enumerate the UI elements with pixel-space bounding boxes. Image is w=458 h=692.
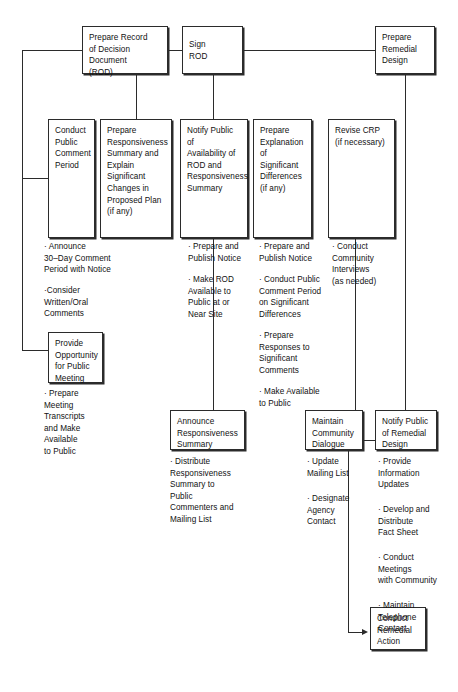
notes-provide-information-updates: · Provide Information Updates — [378, 456, 454, 491]
connector-to-conduct-public-comment — [22, 178, 48, 179]
notes-esd-publish: · Prepare and Publish Notice — [259, 241, 335, 264]
notes-update-mailing-list: · Update Mailing List — [307, 456, 373, 479]
box-announce-responsiveness-summary[interactable]: Announce Responsiveness Summary — [170, 410, 245, 450]
connector-rod-left-stub — [22, 50, 82, 51]
box-maintain-community-dialogue[interactable]: Maintain Community Dialogue — [305, 410, 363, 450]
notes-esd-make-available: · Make Available to Public — [259, 386, 339, 409]
notes-public-comment-period: · Announce 30–Day Comment Period with No… — [44, 241, 136, 276]
flowchart-canvas: Prepare Record of Decision Document (ROD… — [0, 0, 458, 692]
connector-sign-rod-to-remedial-design — [243, 50, 375, 51]
box-notify-public-remedial-design[interactable]: Notify Public of Remedial Design — [375, 410, 437, 450]
connector-rod-down-to-responsiveness — [136, 74, 137, 119]
notes-meeting-transcripts: · Prepare Meeting Transcripts and Make A… — [44, 388, 124, 458]
connector-rod-to-sign-rod — [168, 50, 182, 51]
notes-maintain-telephone-contact: · Maintain Telephone Contact — [378, 600, 454, 635]
box-prepare-explanation-significant-differences[interactable]: Prepare Explanation of Significant Diffe… — [253, 119, 312, 238]
connector-signrod-down-to-notify — [213, 74, 214, 119]
notes-consider-comments: ·Consider Written/Oral Comments — [44, 285, 136, 320]
notes-esd-responses: · Prepare Responses to Significant Comme… — [259, 330, 335, 376]
box-revise-crp[interactable]: Revise CRP (if necessary) — [328, 119, 395, 238]
connector-remedial-design-down — [405, 74, 406, 419]
notes-conduct-meetings: · Conduct Meetings with Community — [378, 552, 458, 587]
arrow-to-conduct-remedial-action — [362, 629, 368, 635]
box-notify-public-availability-rod[interactable]: Notify Public of Availability of ROD and… — [180, 119, 248, 238]
notes-make-rod-available: · Make ROD Available to Public at or Nea… — [188, 274, 258, 320]
connector-left-spine — [22, 50, 23, 350]
notes-distribute-responsiveness: · Distribute Responsiveness Summary to P… — [170, 456, 260, 526]
notes-designate-agency-contact: · Designate Agency Contact — [307, 493, 373, 528]
box-prepare-remedial-design[interactable]: Prepare Remedial Design — [375, 26, 435, 74]
box-sign-rod[interactable]: Sign ROD — [182, 26, 243, 74]
box-prepare-responsiveness-summary[interactable]: Prepare Responsiveness Summary and Expla… — [100, 119, 172, 238]
box-provide-opportunity-public-meeting[interactable]: Provide Opportunity for Public Meeting — [48, 332, 103, 383]
notes-develop-fact-sheet: · Develop and Distribute Fact Sheet — [378, 504, 454, 539]
notes-notify-publish: · Prepare and Publish Notice — [188, 241, 258, 264]
box-conduct-public-comment-period[interactable]: Conduct Public Comment Period — [48, 119, 95, 238]
box-prepare-rod[interactable]: Prepare Record of Decision Document (ROD… — [82, 26, 168, 74]
connector-to-provide-opportunity — [22, 350, 48, 351]
notes-community-interviews: · Conduct Community Interviews (as neede… — [332, 241, 404, 287]
notes-esd-comment-period: · Conduct Public Comment Period on Signi… — [259, 274, 335, 320]
